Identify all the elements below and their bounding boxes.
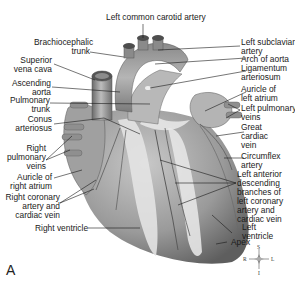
heart-diagram: Left common carotid artery Brachiocephal… [0, 0, 295, 286]
compass-inferior: I [258, 270, 260, 276]
label-brachiocephalic-trunk: Brachiocephalic trunk [34, 38, 90, 56]
label-superior-vena-cava: Superior vena cava [10, 56, 52, 74]
label-right-ventricle: Right ventricle [35, 224, 88, 233]
label-line: right atrium [4, 182, 52, 191]
label-line: arteriosus [10, 124, 52, 133]
label-right-coronary-artery: Right coronary artery and cardiac vein [4, 193, 60, 220]
label-line: trunk [6, 105, 50, 114]
label-line: veins [241, 113, 295, 122]
compass-rose-icon [249, 249, 269, 269]
label-line: cardiac vein [4, 211, 60, 220]
label-line: left atrium [241, 94, 278, 103]
compass-left: L [271, 256, 274, 262]
label-apex: Apex [231, 238, 250, 247]
label-ligamentum-arteriosum: Ligamentum arteriosum [241, 64, 287, 82]
label-circumflex-artery: Circumflex artery [241, 152, 281, 170]
label-line: arteriosum [241, 73, 287, 82]
label-auricle-left-atrium: Auricle of left atrium [241, 85, 278, 103]
label-conus-arteriosus: Conus arteriosus [10, 115, 52, 133]
compass-superior: S [257, 244, 260, 250]
label-line: vena cava [10, 65, 52, 74]
label-pulmonary-trunk: Pulmonary trunk [6, 96, 50, 114]
label-great-cardiac-vein: Great cardiac vein [241, 123, 268, 150]
label-right-pulmonary-veins: Right pulmonary veins [4, 144, 46, 171]
label-left-anterior-descending: Left anterior descending branches of lef… [237, 170, 283, 224]
label-line: vein [241, 141, 268, 150]
label-left-common-carotid-artery: Left common carotid artery [106, 13, 206, 22]
label-line: veins [4, 162, 46, 171]
label-left-pulmonary-veins: Left pulmonary veins [241, 104, 295, 122]
panel-letter: A [6, 262, 15, 278]
label-auricle-right-atrium: Auricle of right atrium [4, 173, 52, 191]
compass-right: R [243, 256, 247, 262]
